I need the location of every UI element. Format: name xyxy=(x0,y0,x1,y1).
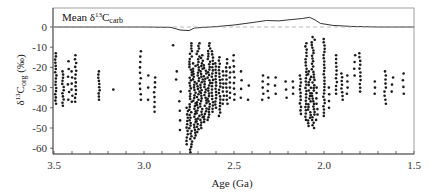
data-point xyxy=(197,98,200,101)
data-point xyxy=(198,115,201,118)
data-point xyxy=(304,61,307,64)
data-point xyxy=(61,101,64,104)
data-point xyxy=(323,44,326,47)
data-point xyxy=(139,82,142,85)
data-point xyxy=(305,109,308,112)
data-point xyxy=(54,61,57,64)
data-point xyxy=(188,90,191,93)
data-point xyxy=(200,124,203,127)
data-point xyxy=(188,119,191,122)
data-point xyxy=(358,56,361,59)
data-point xyxy=(188,108,191,111)
data-point xyxy=(62,89,65,92)
data-point xyxy=(207,55,210,58)
data-point xyxy=(359,90,362,93)
data-point xyxy=(300,106,303,109)
data-point xyxy=(309,100,312,103)
data-point xyxy=(313,84,316,87)
data-point xyxy=(139,55,142,58)
data-point xyxy=(62,105,65,108)
data-point xyxy=(335,77,338,80)
data-point xyxy=(311,119,314,122)
data-point xyxy=(309,117,312,120)
data-point xyxy=(322,105,325,108)
data-point xyxy=(97,73,100,76)
data-point xyxy=(200,127,203,130)
data-point xyxy=(209,60,212,63)
data-point xyxy=(193,83,196,86)
data-point xyxy=(267,90,270,93)
data-point xyxy=(200,73,203,76)
data-point xyxy=(305,93,308,96)
data-point xyxy=(313,108,316,111)
data-point xyxy=(312,71,315,74)
data-point xyxy=(147,86,150,89)
data-point xyxy=(193,137,196,140)
data-point xyxy=(214,75,217,78)
data-point xyxy=(209,103,212,106)
data-point xyxy=(222,90,225,93)
data-point xyxy=(98,83,101,86)
data-point xyxy=(200,97,203,100)
data-point xyxy=(292,92,295,95)
data-point xyxy=(153,96,156,99)
data-point xyxy=(215,65,218,68)
data-point xyxy=(226,94,229,97)
data-point xyxy=(75,89,78,92)
data-point xyxy=(196,101,199,104)
data-point xyxy=(328,100,331,103)
data-point xyxy=(328,107,331,110)
data-point xyxy=(310,92,313,95)
data-point xyxy=(200,92,203,95)
data-point xyxy=(261,80,264,83)
data-point xyxy=(226,58,229,61)
data-point xyxy=(299,95,302,98)
data-point xyxy=(197,61,200,64)
x-tick-label: 3.5 xyxy=(47,159,61,171)
data-point xyxy=(176,70,179,73)
data-point xyxy=(335,69,338,72)
data-point xyxy=(153,111,156,114)
data-point xyxy=(62,73,65,76)
data-point xyxy=(199,84,202,87)
data-point xyxy=(359,71,362,74)
data-point xyxy=(154,76,157,79)
data-point xyxy=(323,63,326,66)
axes-layer: 0-10-20-30-40-50-603.53.02.52.01.5 xyxy=(32,8,421,171)
data-point xyxy=(211,82,214,85)
data-point xyxy=(192,62,195,65)
data-point xyxy=(61,70,64,73)
data-point xyxy=(203,80,206,83)
data-point xyxy=(316,108,319,111)
data-point xyxy=(311,116,314,119)
data-point xyxy=(68,91,71,94)
data-point xyxy=(211,72,214,75)
data-point xyxy=(201,62,204,65)
data-point xyxy=(74,58,77,61)
data-point xyxy=(359,60,362,63)
data-point xyxy=(147,98,150,101)
data-point xyxy=(215,72,218,75)
data-point xyxy=(140,93,143,96)
data-point xyxy=(219,85,222,88)
data-point xyxy=(196,85,199,88)
data-point xyxy=(208,108,211,111)
data-point xyxy=(384,82,387,85)
data-point xyxy=(190,87,193,90)
data-point xyxy=(323,79,326,82)
data-point xyxy=(55,77,58,80)
data-point xyxy=(211,53,214,56)
data-point xyxy=(309,114,312,117)
data-point xyxy=(179,90,182,93)
data-point xyxy=(308,70,311,73)
data-point xyxy=(315,86,318,89)
data-point xyxy=(206,76,209,79)
data-point xyxy=(55,87,58,90)
data-point xyxy=(353,67,356,70)
data-point xyxy=(185,107,188,110)
data-point xyxy=(262,74,265,77)
data-point xyxy=(323,99,326,102)
data-point xyxy=(218,59,221,62)
data-point xyxy=(187,133,190,136)
data-point xyxy=(229,91,232,94)
